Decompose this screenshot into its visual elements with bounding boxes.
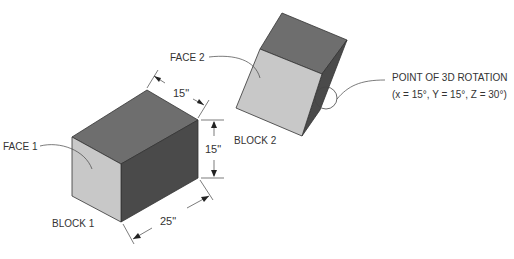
- dimension-length-label: 25": [160, 215, 176, 227]
- block-1-label: BLOCK 1: [52, 218, 95, 229]
- rotation-leader: [337, 80, 385, 99]
- face-1-label: FACE 1: [3, 141, 38, 152]
- rotation-label-line1: POINT OF 3D ROTATION: [392, 72, 508, 83]
- block-1: [72, 90, 198, 222]
- diagram-svg: 15" 15" 25" FACE 1 BLOCK 1 FACE 2 BLOCK …: [0, 0, 514, 259]
- block-2-label: BLOCK 2: [234, 135, 277, 146]
- diagram-canvas: 15" 15" 25" FACE 1 BLOCK 1 FACE 2 BLOCK …: [0, 0, 514, 259]
- dimension-depth-label: 15": [173, 87, 189, 99]
- face-2-label: FACE 2: [170, 52, 205, 63]
- rotation-label-line2: (x = 15°, Y = 15°, Z = 30°): [392, 89, 507, 100]
- dimension-height-label: 15": [205, 143, 221, 155]
- block-2: [236, 13, 347, 136]
